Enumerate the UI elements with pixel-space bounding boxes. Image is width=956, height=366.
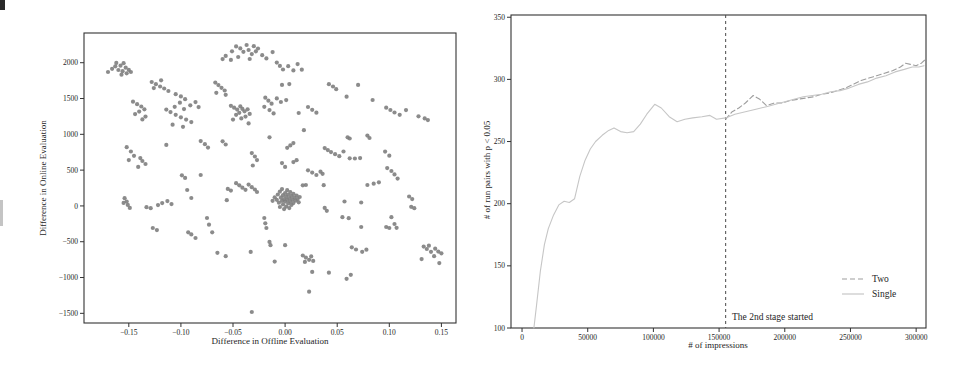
plot-frame: [84, 33, 456, 323]
x-tick-label: 0.15: [435, 328, 448, 337]
scatter-point: [149, 206, 153, 210]
legend-label-single: Single: [872, 289, 896, 299]
scatter-point: [266, 99, 270, 103]
scatter-point: [286, 64, 290, 68]
scatter-x-axis-label: Difference in Offline Evaluation: [212, 336, 329, 346]
scatter-point: [297, 111, 301, 115]
scatter-point: [309, 254, 313, 258]
scatter-point: [367, 136, 371, 140]
y-tick-label: 350: [494, 13, 506, 22]
scatter-point: [412, 206, 416, 210]
scatter-point: [333, 152, 337, 156]
scatter-point: [396, 177, 400, 181]
scatter-point: [264, 56, 268, 60]
scatter-point: [210, 230, 214, 234]
scatter-point: [310, 108, 314, 112]
scatter-point: [280, 83, 284, 87]
scatter-point: [165, 199, 169, 203]
scatter-point: [427, 244, 431, 248]
scatter-point: [295, 158, 299, 162]
scatter-point: [283, 165, 287, 169]
scatter-point: [182, 107, 186, 111]
scatter-point: [231, 118, 235, 122]
scatter-point: [359, 200, 363, 204]
scatter-point: [179, 94, 183, 98]
scatter-point: [251, 163, 255, 167]
scatter-point: [395, 226, 399, 230]
plot-frame: [511, 15, 926, 328]
scatter-point: [387, 154, 391, 158]
scatter-point: [137, 110, 141, 114]
scatter-point: [143, 162, 147, 166]
scatter-point: [129, 70, 133, 74]
scatter-point: [253, 154, 257, 158]
scatter-point: [262, 105, 266, 109]
scatter-point: [142, 107, 146, 111]
scatter-point: [310, 270, 314, 274]
scatter-point: [139, 104, 143, 108]
scatter-point: [179, 115, 183, 119]
y-tick-label: 1500: [63, 94, 78, 103]
scatter-point: [168, 110, 172, 114]
scatter-point: [224, 93, 228, 97]
scatter-point: [193, 236, 197, 240]
scatter-point: [262, 216, 266, 220]
scatter-point: [162, 86, 166, 90]
y-tick-label: 0: [74, 202, 78, 211]
x-tick-label: 100000: [642, 333, 665, 342]
scatter-point: [302, 128, 306, 132]
scatter-point: [174, 92, 178, 96]
scatter-point: [116, 68, 120, 72]
scatter-point: [230, 49, 234, 53]
scatter-point: [247, 121, 251, 125]
scatter-point: [340, 215, 344, 219]
scatter-point: [154, 82, 158, 86]
scatter-point: [372, 182, 376, 186]
scatter-point: [184, 118, 188, 122]
scatter-point: [173, 105, 177, 109]
scatter-point: [334, 87, 338, 91]
scatter-point: [281, 67, 285, 71]
scatter-point: [158, 84, 162, 88]
scatter-point: [171, 123, 175, 127]
y-tick-label: −1500: [59, 309, 78, 318]
x-tick-label: −0.10: [172, 328, 190, 337]
scatter-point: [252, 44, 256, 48]
scatter-point: [248, 112, 252, 116]
scatter-point: [353, 156, 357, 160]
scatter-point: [365, 183, 369, 187]
scatter-point: [260, 53, 264, 57]
scatter-point: [347, 216, 351, 220]
scatter-point: [156, 203, 160, 207]
scatter-point: [169, 202, 173, 206]
scatter-point: [263, 96, 267, 100]
scatter-point: [389, 215, 393, 219]
scatter-point: [280, 187, 284, 191]
scatter-point: [199, 139, 203, 143]
series-line-single: [534, 66, 924, 328]
scatter-point: [129, 149, 133, 153]
x-tick-label: 300000: [905, 333, 928, 342]
scatter-point: [127, 158, 131, 162]
scatter-point: [250, 151, 254, 155]
scatter-point: [249, 250, 253, 254]
scatter-point: [144, 205, 148, 209]
scatter-point: [359, 225, 363, 229]
scatter-point: [291, 141, 295, 145]
scatter-point: [354, 247, 358, 251]
y-tick-label: 500: [67, 166, 79, 175]
x-tick-label: 250000: [839, 333, 862, 342]
scatter-point: [246, 107, 250, 111]
y-tick-label: 150: [494, 261, 506, 270]
scatter-point: [224, 254, 228, 258]
scatter-point: [164, 143, 168, 147]
scatter-point: [245, 43, 249, 47]
scatter-point: [432, 254, 436, 258]
scatter-point: [384, 106, 388, 110]
scatter-point: [263, 221, 267, 225]
y-tick-label: 200: [494, 199, 506, 208]
scatter-point: [152, 86, 156, 90]
scatter-point: [106, 70, 110, 74]
scatter-point: [271, 199, 275, 203]
y-tick-label: 100: [494, 324, 506, 333]
